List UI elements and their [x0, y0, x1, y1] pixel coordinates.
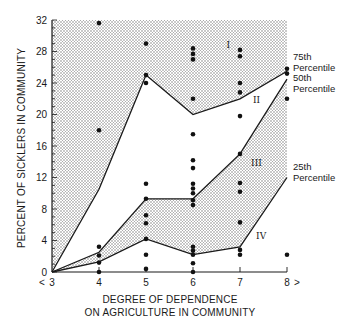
percentile-annotation: 25th	[293, 161, 312, 172]
x-tick-label: 4	[96, 277, 102, 288]
x-tick-label: 8	[284, 277, 290, 288]
data-point	[191, 158, 196, 163]
region-shading	[52, 20, 287, 272]
data-point	[285, 67, 290, 72]
data-point	[191, 248, 196, 253]
x-tick-label: 5	[143, 277, 149, 288]
data-point	[191, 191, 196, 196]
y-axis-title: PERCENT OF SICKLERS IN COMMUNITY	[16, 48, 27, 248]
data-point	[238, 248, 243, 253]
y-tick-label: 20	[36, 109, 48, 120]
data-point	[191, 261, 196, 266]
y-tick-label: 8	[41, 204, 47, 215]
data-point	[238, 181, 243, 186]
y-tick-label: 32	[36, 15, 48, 26]
data-point	[191, 97, 196, 102]
y-tick-label: 16	[36, 141, 48, 152]
data-point	[191, 57, 196, 62]
x-axis: 345678<>	[39, 267, 300, 288]
data-point	[144, 237, 149, 242]
y-tick-label: 0	[41, 267, 47, 278]
data-point	[191, 198, 196, 203]
data-point	[97, 128, 102, 133]
x-tick-label: 3	[49, 277, 55, 288]
y-tick-label: 24	[36, 78, 48, 89]
data-point	[97, 253, 102, 258]
percentile-labels: 75thPercentile50thPercentile25thPercenti…	[293, 51, 335, 182]
region-label-III: III	[251, 158, 262, 168]
region-label-II: II	[253, 95, 261, 105]
data-point	[285, 97, 290, 102]
data-point	[238, 114, 243, 119]
y-tick-label: 12	[36, 172, 48, 183]
chart: 048121620242832 345678<> IIIIIIIV 75thPe…	[0, 0, 349, 332]
data-point	[144, 213, 149, 218]
x-axis-title-line2: ON AGRICULTURE IN COMMUNITY	[85, 307, 256, 318]
data-point	[191, 46, 196, 51]
percentile-annotation: 75th	[293, 51, 312, 62]
data-point	[144, 221, 149, 226]
y-tick-label: 28	[36, 46, 48, 57]
data-point	[238, 54, 243, 59]
data-point	[238, 48, 243, 53]
data-point	[191, 52, 196, 57]
data-point	[238, 220, 243, 225]
data-point	[144, 252, 149, 257]
percentile-annotation: Percentile	[293, 83, 335, 94]
percentile-annotation: Percentile	[293, 172, 335, 183]
x-tick-label: 6	[190, 277, 196, 288]
data-point	[191, 132, 196, 137]
data-point	[144, 41, 149, 46]
data-point	[97, 260, 102, 265]
y-tick-label: 4	[41, 235, 47, 246]
percentile-annotation: 50th	[293, 72, 312, 83]
data-point	[144, 182, 149, 187]
data-point	[285, 252, 290, 257]
x-tick-label: 7	[237, 277, 243, 288]
data-point	[144, 81, 149, 86]
x-axis-title-line1: DEGREE OF DEPENDENCE	[102, 294, 237, 305]
data-point	[238, 252, 243, 257]
data-point	[191, 203, 196, 208]
x-axis-right-arrow: >	[294, 277, 300, 288]
region-label-IV: IV	[256, 231, 267, 241]
data-point	[238, 90, 243, 95]
data-point	[191, 186, 196, 191]
data-point	[144, 197, 149, 202]
region-label-I: I	[226, 40, 230, 50]
data-point	[238, 152, 243, 157]
data-point	[97, 21, 102, 26]
data-point	[238, 189, 243, 194]
data-point	[191, 252, 196, 257]
data-point	[144, 73, 149, 78]
x-axis-left-arrow: <	[39, 277, 45, 288]
data-point	[97, 245, 102, 250]
data-point	[238, 81, 243, 86]
data-point	[191, 166, 196, 171]
data-point	[191, 182, 196, 187]
data-point	[285, 71, 290, 76]
